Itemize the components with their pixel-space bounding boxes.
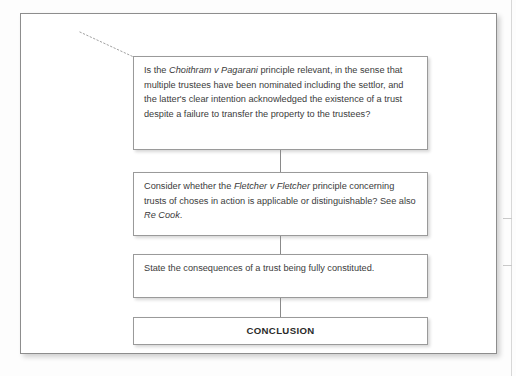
- flow-connector-1: [280, 150, 281, 172]
- case-citation-fletcher-v-fletcher: Fletcher v Fletcher: [234, 181, 310, 191]
- flow-node-conclusion: CONCLUSION: [133, 317, 428, 345]
- node-text-choithram: Is the Choithram v Pagarani principle re…: [144, 63, 418, 121]
- scan-tick-mark: [503, 265, 512, 266]
- conclusion-label: CONCLUSION: [247, 324, 315, 339]
- node-text-run: .: [180, 210, 183, 220]
- flow-node-fletcher: Consider whether the Fletcher v Fletcher…: [133, 172, 428, 236]
- scan-tick-mark: [503, 218, 512, 219]
- flowchart-page: Is the Choithram v Pagarani principle re…: [0, 0, 516, 376]
- node-text-run: Is the: [144, 65, 169, 75]
- node-text-run: Consider whether the: [144, 181, 234, 191]
- scan-edge-line: [511, 0, 512, 376]
- node-text-fletcher: Consider whether the Fletcher v Fletcher…: [144, 179, 418, 223]
- flow-node-consequences: State the consequences of a trust being …: [133, 254, 428, 298]
- node-text-consequences: State the consequences of a trust being …: [144, 261, 418, 276]
- case-citation-re-cook: Re Cook: [144, 210, 180, 220]
- node-text-run: State the consequences of a trust being …: [144, 263, 374, 273]
- case-citation-choithram-v-pagarani: Choithram v Pagarani: [169, 65, 258, 75]
- flow-connector-2: [280, 236, 281, 254]
- flow-node-choithram: Is the Choithram v Pagarani principle re…: [133, 56, 428, 150]
- dotted-leader-line: [79, 32, 137, 62]
- diagram-frame: Is the Choithram v Pagarani principle re…: [20, 13, 497, 354]
- flow-connector-3: [280, 298, 281, 317]
